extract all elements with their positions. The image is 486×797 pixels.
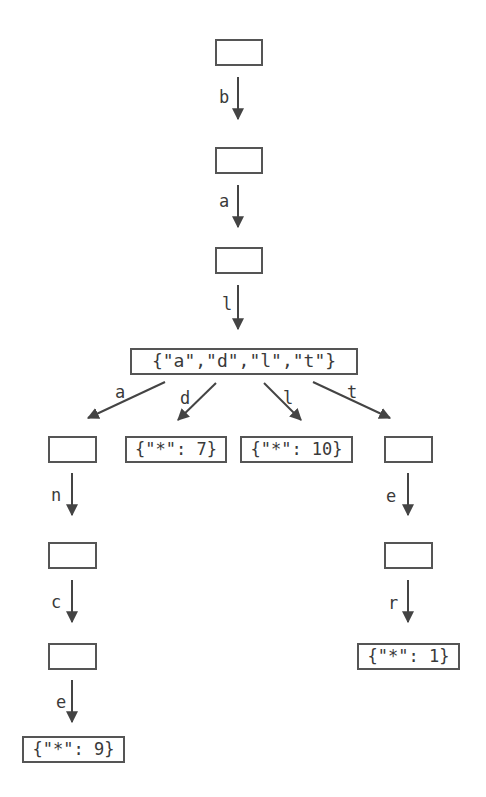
edge-label-n: n bbox=[51, 486, 61, 504]
edge-label-e-right: e bbox=[386, 487, 396, 505]
trie-node-a3 bbox=[48, 643, 97, 670]
edge-label-l-top: l bbox=[222, 295, 232, 313]
edge-label-e-left: e bbox=[56, 693, 66, 711]
edge-label-a-branch: a bbox=[115, 383, 125, 401]
leaf-d-count: {"*": 7} bbox=[125, 436, 227, 463]
edge-label-c: c bbox=[51, 593, 61, 611]
edge-a-branch bbox=[88, 382, 165, 418]
edge-label-a-top: a bbox=[219, 192, 229, 210]
trie-node-t2 bbox=[384, 542, 433, 569]
edges-layer bbox=[0, 0, 486, 797]
edge-label-b: b bbox=[219, 88, 229, 106]
trie-node-3 bbox=[215, 247, 263, 274]
leaf-l-count: {"*": 10} bbox=[240, 436, 353, 463]
leaf-ance-count: {"*": 9} bbox=[22, 736, 125, 763]
edge-label-r: r bbox=[388, 594, 398, 612]
trie-node-t1 bbox=[384, 436, 433, 463]
trie-node-a1 bbox=[48, 436, 97, 463]
trie-node-a2 bbox=[48, 542, 97, 569]
edge-label-d-branch: d bbox=[180, 389, 190, 407]
trie-node-2 bbox=[215, 147, 263, 174]
trie-node-1 bbox=[215, 39, 263, 66]
edge-label-t-branch: t bbox=[347, 383, 357, 401]
leaf-ter-count: {"*": 1} bbox=[357, 643, 460, 670]
root-set-node: {"a","d","l","t"} bbox=[130, 348, 358, 375]
edge-label-l-branch: l bbox=[283, 389, 293, 407]
